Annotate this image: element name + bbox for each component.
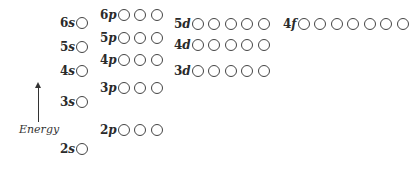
orbital-circle-icon	[118, 9, 130, 21]
subshell-letter: p	[108, 123, 116, 137]
orbital-circle-icon	[134, 82, 146, 94]
orbital-label: 5s	[60, 40, 75, 54]
orbital-circle-icon	[192, 18, 204, 30]
orbital-5s: 5s	[60, 40, 93, 54]
orbital-circle-icon	[380, 18, 392, 30]
orbital-circle-icon	[134, 54, 146, 66]
orbital-circle-icon	[208, 65, 220, 77]
orbital-label: 3p	[100, 81, 117, 95]
orbital-energy-diagram: Energy 6s5s4s3s2s6p5p4p3p2p5d4d3d4f	[0, 0, 414, 194]
orbital-circle-icon	[151, 124, 163, 136]
subshell-letter: d	[182, 38, 190, 52]
orbital-4s: 4s	[60, 64, 93, 78]
orbital-circle-icon	[118, 82, 130, 94]
orbital-circle-icon	[208, 18, 220, 30]
orbital-circles	[118, 54, 168, 66]
orbital-circle-icon	[192, 65, 204, 77]
orbital-circle-icon	[134, 9, 146, 21]
orbital-2s: 2s	[60, 142, 93, 156]
orbital-circle-icon	[118, 124, 130, 136]
subshell-letter: s	[68, 16, 75, 30]
orbital-circles	[76, 41, 93, 53]
orbital-circle-icon	[76, 41, 88, 53]
orbital-2p: 2p	[100, 123, 167, 137]
orbital-circle-icon	[134, 32, 146, 44]
orbital-circle-icon	[208, 39, 220, 51]
orbital-circle-icon	[76, 65, 88, 77]
orbital-circle-icon	[241, 65, 253, 77]
orbital-circle-icon	[258, 39, 270, 51]
orbital-circles	[76, 17, 93, 29]
orbital-3p: 3p	[100, 81, 167, 95]
orbital-3d: 3d	[174, 64, 274, 78]
orbital-circles	[118, 82, 168, 94]
orbital-circle-icon	[258, 65, 270, 77]
orbital-circle-icon	[241, 39, 253, 51]
arrow-shaft	[38, 86, 39, 122]
orbital-circle-icon	[118, 54, 130, 66]
orbital-circle-icon	[151, 54, 163, 66]
subshell-letter: d	[182, 17, 190, 31]
orbital-4d: 4d	[174, 38, 274, 52]
subshell-letter: s	[68, 40, 75, 54]
orbital-label: 4s	[60, 64, 75, 78]
orbital-circle-icon	[225, 39, 237, 51]
orbital-circle-icon	[331, 18, 343, 30]
orbital-circles	[118, 9, 168, 21]
orbital-circle-icon	[151, 32, 163, 44]
orbital-circle-icon	[225, 18, 237, 30]
orbital-5d: 5d	[174, 17, 274, 31]
subshell-letter: p	[108, 8, 116, 22]
orbital-5p: 5p	[100, 31, 167, 45]
orbital-label: 6p	[100, 8, 117, 22]
subshell-letter: p	[108, 31, 116, 45]
orbital-circles	[192, 39, 275, 51]
orbital-circle-icon	[134, 124, 146, 136]
orbital-6s: 6s	[60, 16, 93, 30]
orbital-circle-icon	[258, 18, 270, 30]
orbital-circles	[76, 96, 93, 108]
orbital-3s: 3s	[60, 95, 93, 109]
orbital-label: 3s	[60, 95, 75, 109]
orbital-label: 6s	[60, 16, 75, 30]
subshell-letter: f	[291, 17, 296, 31]
orbital-circle-icon	[241, 18, 253, 30]
orbital-circles	[192, 65, 275, 77]
subshell-letter: s	[68, 95, 75, 109]
orbital-circles	[76, 65, 93, 77]
orbital-circle-icon	[192, 39, 204, 51]
orbital-label: 2p	[100, 123, 117, 137]
orbital-circle-icon	[76, 143, 88, 155]
orbital-label: 5p	[100, 31, 117, 45]
subshell-letter: p	[108, 81, 116, 95]
orbital-4f: 4f	[283, 17, 413, 31]
subshell-letter: s	[68, 142, 75, 156]
orbital-label: 2s	[60, 142, 75, 156]
orbital-circles	[298, 18, 414, 30]
orbital-label: 4p	[100, 53, 117, 67]
orbital-label: 5d	[174, 17, 191, 31]
orbital-label: 4f	[283, 17, 297, 31]
orbital-circle-icon	[151, 82, 163, 94]
orbital-circles	[192, 18, 275, 30]
orbital-label: 3d	[174, 64, 191, 78]
orbital-circle-icon	[151, 9, 163, 21]
energy-axis-label: Energy	[19, 123, 59, 136]
orbital-circle-icon	[347, 18, 359, 30]
orbital-6p: 6p	[100, 8, 167, 22]
orbital-circles	[118, 32, 168, 44]
orbital-circle-icon	[76, 17, 88, 29]
subshell-letter: d	[182, 64, 190, 78]
orbital-circle-icon	[314, 18, 326, 30]
orbital-circle-icon	[397, 18, 409, 30]
orbital-circle-icon	[364, 18, 376, 30]
orbital-circle-icon	[118, 32, 130, 44]
orbital-circles	[76, 143, 93, 155]
orbital-circles	[118, 124, 168, 136]
orbital-label: 4d	[174, 38, 191, 52]
orbital-4p: 4p	[100, 53, 167, 67]
orbital-circle-icon	[76, 96, 88, 108]
subshell-letter: s	[68, 64, 75, 78]
subshell-letter: p	[108, 53, 116, 67]
orbital-circle-icon	[225, 65, 237, 77]
